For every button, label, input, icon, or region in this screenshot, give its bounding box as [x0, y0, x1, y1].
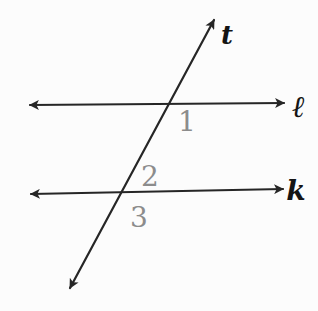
- line-label-l: ℓ: [292, 89, 305, 124]
- parallel-line-l: [30, 103, 284, 105]
- geometry-figure: t ℓ k 1 2 3: [0, 0, 318, 311]
- line-label-k: k: [286, 174, 305, 207]
- diagram-canvas: t ℓ k 1 2 3: [0, 0, 318, 311]
- angle-label-1: 1: [178, 105, 196, 138]
- angle-label-3: 3: [130, 201, 148, 234]
- line-label-t: t: [221, 20, 233, 50]
- angle-label-2: 2: [141, 160, 159, 193]
- transversal-line-t: [70, 20, 214, 288]
